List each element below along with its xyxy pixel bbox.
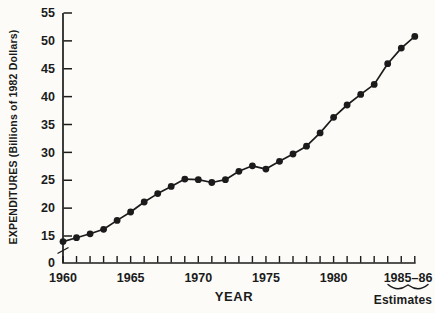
data-point xyxy=(195,176,202,183)
data-point xyxy=(87,230,94,237)
data-point xyxy=(127,209,134,216)
y-tick-label: 20 xyxy=(41,201,55,215)
data-point xyxy=(290,151,297,158)
data-point xyxy=(357,91,364,98)
y-tick-label: 40 xyxy=(41,90,55,104)
x-tick-label: 1970 xyxy=(184,271,212,285)
estimates-underbrace xyxy=(388,285,428,289)
x-axis: 196019651970197519801985–86 xyxy=(49,256,432,285)
y-tick-label: 15 xyxy=(41,229,55,243)
data-point xyxy=(181,176,188,183)
data-point xyxy=(114,217,121,224)
y-tick-label: 50 xyxy=(41,34,55,48)
data-point xyxy=(384,60,391,67)
estimates-annotation: Estimates xyxy=(374,293,433,307)
y-tick-label: 30 xyxy=(41,146,55,160)
x-axis-title: YEAR xyxy=(215,289,254,304)
y-axis-origin-label: 0 xyxy=(48,256,55,270)
line-chart-canvas: 5550454035302520150 19601965197019751980… xyxy=(0,0,435,313)
data-point xyxy=(100,226,107,233)
data-point xyxy=(236,168,243,175)
data-point xyxy=(73,234,80,241)
x-tick-label: 1965 xyxy=(117,271,145,285)
data-point xyxy=(330,114,337,121)
y-tick-label: 55 xyxy=(41,6,55,20)
y-tick-label: 35 xyxy=(41,118,55,132)
data-point xyxy=(344,102,351,109)
data-point xyxy=(398,45,405,52)
data-point xyxy=(411,33,418,40)
data-point xyxy=(154,190,161,197)
data-point xyxy=(303,143,310,150)
x-tick-label: 1960 xyxy=(49,271,77,285)
y-tick-label: 45 xyxy=(41,62,55,76)
underbrace-path xyxy=(388,285,428,289)
data-point xyxy=(141,199,148,206)
data-point xyxy=(263,166,270,173)
data-point xyxy=(208,179,215,186)
data-point xyxy=(371,81,378,88)
expenditures-series xyxy=(60,33,419,245)
y-tick-label: 25 xyxy=(41,173,55,187)
data-point xyxy=(317,130,324,137)
data-point xyxy=(222,176,229,183)
x-tick-label: 1980 xyxy=(320,271,348,285)
expenditures-line-chart-figure: 5550454035302520150 19601965197019751980… xyxy=(0,0,435,313)
y-axis: 5550454035302520150 xyxy=(41,6,72,270)
data-point xyxy=(60,238,67,245)
data-point xyxy=(249,162,256,169)
expenditures-line xyxy=(63,36,415,241)
x-tick-label: 1985–86 xyxy=(384,271,433,285)
y-axis-title: EXPENDITURES (Billions of 1982 Dollars) xyxy=(7,30,19,245)
data-point xyxy=(168,183,175,190)
data-point xyxy=(276,158,283,165)
x-tick-label: 1975 xyxy=(252,271,280,285)
